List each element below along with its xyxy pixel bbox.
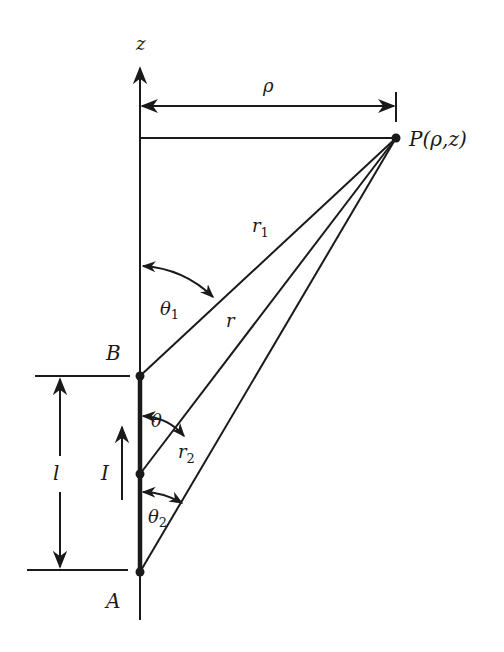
r1-label: r1 <box>252 215 269 240</box>
current-label: I <box>100 461 110 485</box>
theta1-label: θ1 <box>160 298 179 322</box>
a-label: A <box>104 589 120 613</box>
b-label: B <box>105 341 121 365</box>
theta1-arc <box>143 266 213 297</box>
wire-field-diagram: z ρ P(ρ,z) r1 r r2 θ1 θ θ2 B A l I <box>0 0 504 652</box>
theta2-arc <box>143 492 182 503</box>
line-r2 <box>140 138 396 572</box>
line-r1 <box>140 138 396 376</box>
line-r <box>140 138 396 474</box>
point-p-label: P(ρ,z) <box>408 127 467 151</box>
r-label: r <box>226 310 236 331</box>
r2-label: r2 <box>178 441 195 466</box>
theta-arc <box>143 416 184 436</box>
rho-label: ρ <box>262 75 274 96</box>
l-label: l <box>53 461 59 485</box>
theta-label: θ <box>151 410 162 431</box>
theta2-label: θ2 <box>148 506 167 530</box>
z-axis-label: z <box>135 33 146 54</box>
point-b <box>136 372 145 381</box>
point-mid <box>136 470 145 479</box>
point-a <box>136 568 145 577</box>
